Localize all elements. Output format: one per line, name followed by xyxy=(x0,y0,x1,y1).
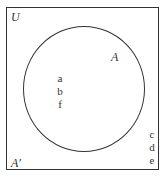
complement-label: A′ xyxy=(11,157,21,169)
set-a-circle xyxy=(23,26,145,152)
element: f xyxy=(55,98,65,111)
element: a xyxy=(55,72,65,85)
element: b xyxy=(55,85,65,98)
universal-label: U xyxy=(11,11,20,23)
element: e xyxy=(147,154,157,167)
set-a-label: A xyxy=(111,51,118,63)
element: d xyxy=(147,141,157,154)
element: c xyxy=(147,128,157,141)
